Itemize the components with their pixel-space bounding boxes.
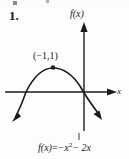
equation-term-one: −x bbox=[58, 142, 69, 153]
function-equation: f(x)=−x2− 2x bbox=[0, 141, 129, 153]
coordinate-plane-graphic bbox=[0, 0, 129, 159]
parabola-figure: 1. f(x) x (−1,1) f(x)=−x2− 2x bbox=[0, 0, 129, 159]
equation-function-name: f(x) bbox=[38, 142, 52, 153]
curve-right-arrowhead bbox=[94, 111, 103, 121]
vertex-point-marker bbox=[51, 65, 55, 69]
equation-term-two: − 2x bbox=[72, 142, 91, 153]
x-axis-arrowhead bbox=[107, 88, 117, 95]
y-axis-arrowhead bbox=[80, 22, 87, 32]
